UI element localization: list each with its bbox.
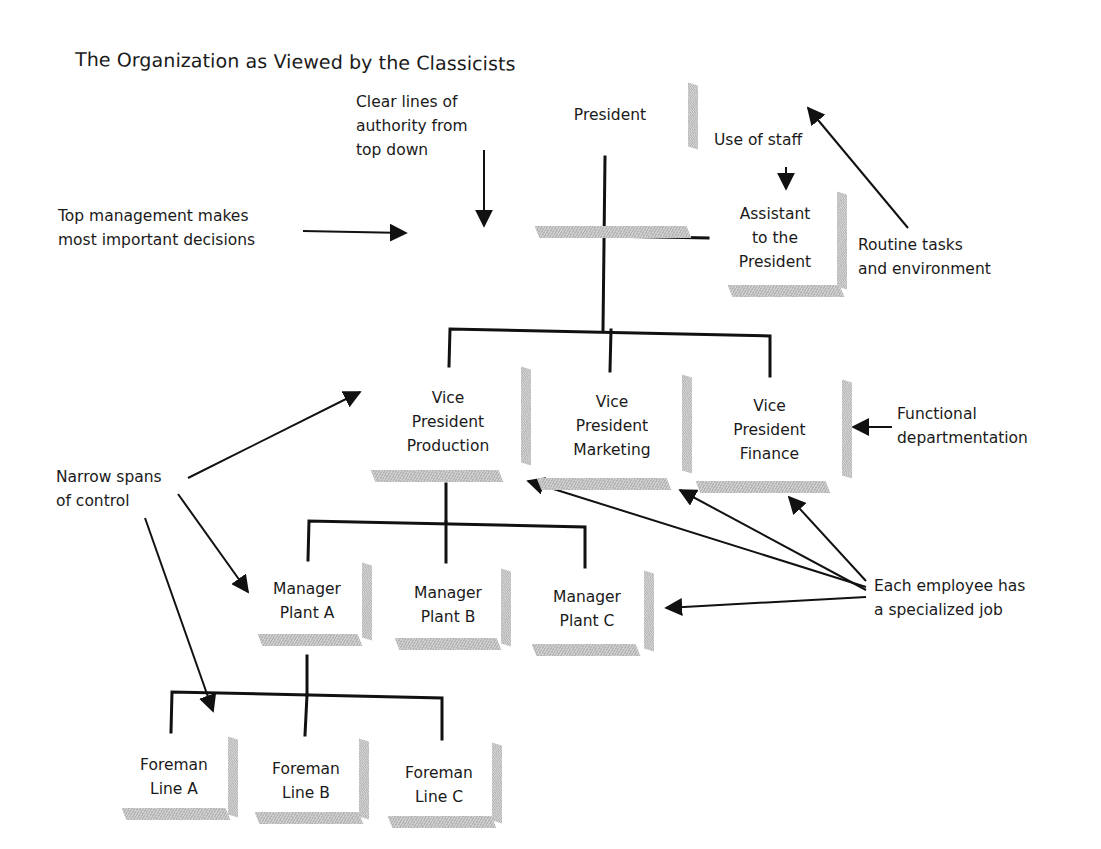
diagram-title: The Organization as Viewed by the Classi… <box>75 48 516 75</box>
node-label: Production <box>407 434 489 458</box>
annotation-routine-tasks: Routine tasks and environment <box>858 233 991 281</box>
node-label: Foreman <box>140 753 208 777</box>
node-label: Plant A <box>280 601 335 625</box>
node-label: Finance <box>740 442 799 466</box>
node-label: Manager <box>553 585 621 609</box>
annotation-functional-departmentation: Functional departmentation <box>897 402 1028 450</box>
annotation-top-management: Top management makes most important deci… <box>58 204 255 252</box>
node-label: Vice <box>432 386 465 410</box>
org-chart-diagram: The Organization as Viewed by the Classi… <box>0 0 1101 849</box>
annotation-narrow-spans: Narrow spans of control <box>56 465 162 513</box>
node-label: to the <box>752 226 798 250</box>
node-label: President <box>574 103 646 127</box>
node-label: Manager <box>414 581 482 605</box>
node-label: Vice <box>596 390 629 414</box>
node-label: Assistant <box>740 202 811 226</box>
node-label: President <box>412 410 484 434</box>
node-label: President <box>733 418 805 442</box>
node-label: Foreman <box>272 757 340 781</box>
node-label: Line B <box>282 781 330 805</box>
annotation-use-of-staff: Use of staff <box>714 128 802 152</box>
node-label: Manager <box>273 577 341 601</box>
node-label: Marketing <box>573 438 650 462</box>
annotation-clear-lines-of-authority: Clear lines of authority from top down <box>356 90 468 162</box>
node-label: President <box>576 414 648 438</box>
annotation-specialized-job: Each employee has a specialized job <box>874 574 1025 622</box>
node-label: Plant C <box>560 609 615 633</box>
node-label: Foreman <box>405 761 473 785</box>
node-label: Vice <box>753 394 786 418</box>
node-label: Line A <box>150 777 198 801</box>
node-label: Line C <box>415 785 463 809</box>
node-label: Plant B <box>421 605 476 629</box>
node-label: President <box>739 250 811 274</box>
